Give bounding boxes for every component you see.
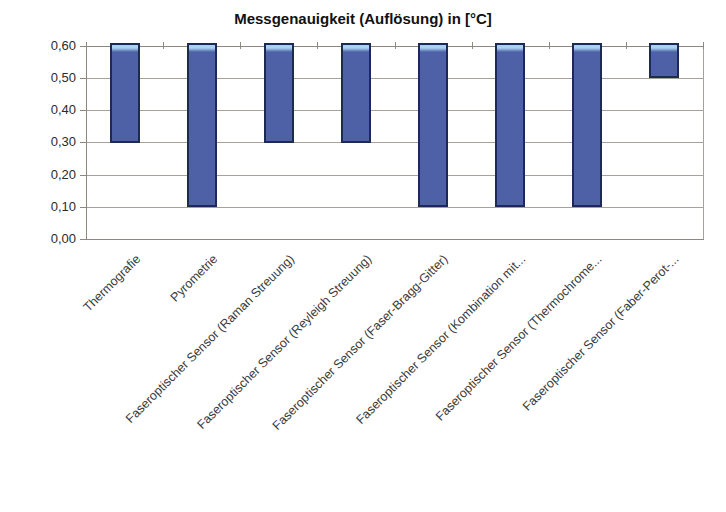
gridline bbox=[86, 207, 703, 208]
category-axis-tick bbox=[163, 42, 164, 49]
category-label-text: Thermografie bbox=[80, 252, 142, 314]
bar bbox=[495, 43, 525, 207]
gridline bbox=[86, 175, 703, 176]
category-axis-tick bbox=[317, 42, 318, 49]
category-axis-tick bbox=[626, 42, 627, 49]
category-label-text: Faseroptischer Sensor (Kombination mit..… bbox=[353, 252, 528, 427]
y-axis-tick bbox=[80, 78, 86, 79]
category-axis-tick bbox=[395, 42, 396, 49]
y-tick-label: 0,50 bbox=[32, 70, 76, 85]
category-label-text: Faseroptischer Sensor (Faber-Perot-... bbox=[520, 252, 682, 414]
y-tick-label: 0,00 bbox=[32, 231, 76, 246]
category-axis-tick bbox=[549, 42, 550, 49]
bar bbox=[341, 43, 371, 143]
category-axis-tick bbox=[703, 42, 704, 49]
plot-border bbox=[703, 46, 704, 239]
category-label-text: Faseroptischer Sensor (Reyleigh Streuung… bbox=[194, 252, 374, 432]
gridline bbox=[86, 78, 703, 79]
bar bbox=[264, 43, 294, 143]
y-tick-label: 0,60 bbox=[32, 38, 76, 53]
category-label-text: Pyrometrie bbox=[167, 252, 220, 305]
y-axis-tick bbox=[80, 175, 86, 176]
gridline bbox=[86, 142, 703, 143]
y-axis-tick bbox=[80, 207, 86, 208]
category-label-text: Faseroptischer Sensor (Faser-Bragg-Gitte… bbox=[270, 252, 451, 433]
category-axis-tick bbox=[86, 42, 87, 49]
category-label-text: Faseroptischer Sensor (Thermochrome... bbox=[433, 252, 605, 424]
y-axis-tick bbox=[80, 239, 86, 240]
bar bbox=[418, 43, 448, 207]
category-label-text: Faseroptischer Sensor (Raman Streuung) bbox=[123, 252, 297, 426]
plot-border bbox=[86, 239, 704, 240]
y-axis-tick bbox=[80, 142, 86, 143]
y-tick-label: 0,20 bbox=[32, 167, 76, 182]
bar bbox=[187, 43, 217, 207]
plot-area: 0,000,100,200,300,400,500,60Thermografie… bbox=[0, 0, 726, 512]
y-tick-label: 0,10 bbox=[32, 199, 76, 214]
plot-border bbox=[86, 46, 87, 239]
y-tick-label: 0,30 bbox=[32, 134, 76, 149]
bar bbox=[649, 43, 679, 78]
category-axis-tick bbox=[472, 42, 473, 49]
bar bbox=[110, 43, 140, 143]
bar bbox=[572, 43, 602, 207]
gridline bbox=[86, 110, 703, 111]
y-axis-tick bbox=[80, 110, 86, 111]
chart-page: Messgenauigkeit (Auflösung) in [°C] 0,00… bbox=[0, 0, 726, 512]
category-axis-tick bbox=[240, 42, 241, 49]
y-tick-label: 0,40 bbox=[32, 102, 76, 117]
